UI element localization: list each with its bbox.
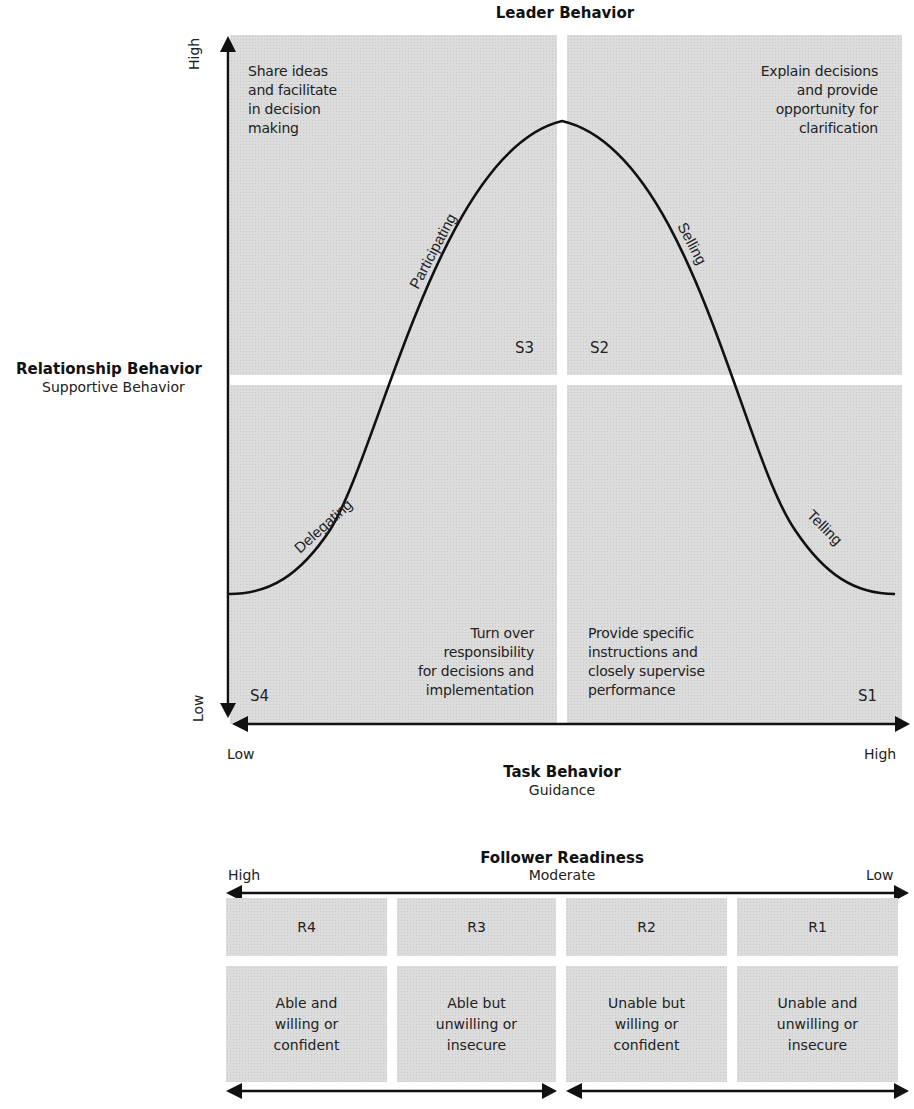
- curve-label-participating: Participating: [406, 211, 460, 292]
- arrow-down-icon: [220, 703, 236, 718]
- y-axis-high-label: High: [186, 38, 202, 70]
- readiness-desc-r2: Unable butwilling orconfident: [566, 966, 727, 1082]
- quadrant-s2-description: Explain decisions and provide opportunit…: [761, 62, 878, 138]
- quadrant-s4-description: Turn over responsibility for decisions a…: [418, 624, 534, 700]
- x-axis-title: Task Behavior: [0, 763, 914, 781]
- curve-label-selling: Selling: [674, 219, 710, 267]
- curve-label-delegating: Delegating: [291, 496, 356, 557]
- x-axis-low-label: Low: [227, 746, 255, 762]
- arrow-up-icon: [220, 36, 236, 52]
- readiness-moderate-label: Moderate: [0, 867, 914, 883]
- readiness-desc-r3: Able butunwilling orinsecure: [397, 966, 556, 1082]
- readiness-code-r4: R4: [226, 898, 387, 956]
- readiness-code-r3: R3: [397, 898, 556, 956]
- y-axis-title: Relationship Behavior: [16, 360, 202, 378]
- arrow-left-icon: [232, 716, 248, 732]
- quadrant-s1-description: Provide specific instructions and closel…: [588, 624, 705, 700]
- readiness-low-label: Low: [866, 867, 894, 883]
- readiness-title: Follower Readiness: [0, 849, 914, 867]
- readiness-desc-r1: Unable andunwilling orinsecure: [737, 966, 898, 1082]
- readiness-desc-r4: Able andwilling orconfident: [226, 966, 387, 1082]
- x-axis-high-label: High: [864, 746, 896, 762]
- readiness-code-r2: R2: [566, 898, 727, 956]
- style-code-s1: S1: [858, 687, 877, 705]
- style-code-s4: S4: [250, 687, 269, 705]
- quadrant-s3-description: Share ideas and facilitate in decision m…: [248, 62, 337, 138]
- style-code-s3: S3: [515, 339, 534, 357]
- readiness-code-r1: R1: [737, 898, 898, 956]
- style-code-s2: S2: [590, 339, 609, 357]
- curve-label-telling: Telling: [804, 506, 846, 548]
- x-axis-subtitle: Guidance: [0, 782, 914, 798]
- y-axis-low-label: Low: [190, 694, 206, 722]
- y-axis-subtitle: Supportive Behavior: [42, 379, 185, 395]
- arrow-right-icon: [895, 716, 910, 732]
